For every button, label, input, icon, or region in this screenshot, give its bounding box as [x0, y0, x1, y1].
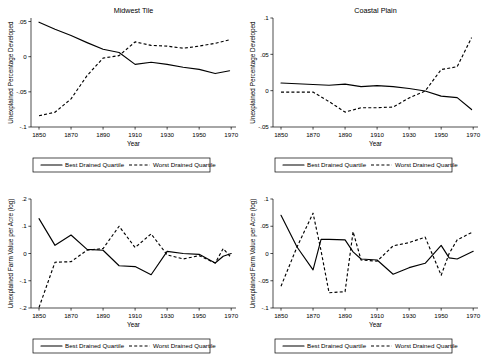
- panel-midwest-tile-pct: Midwest Tile.050-.05-.118501870189019101…: [0, 0, 242, 180]
- x-tick-label: 1910: [370, 131, 384, 138]
- panel-midwest-tile-value: .2.10-.1-.21850187018901910193019501970Y…: [0, 181, 242, 361]
- x-tick-label: 1930: [402, 131, 416, 138]
- legend-label-best-drained: Best Drained Quartile: [65, 342, 125, 349]
- y-tick-label: -.1: [20, 277, 28, 284]
- legend-label-best-drained: Best Drained Quartile: [307, 161, 367, 168]
- x-tick-label: 1850: [274, 131, 288, 138]
- x-tick-label: 1870: [306, 312, 320, 319]
- x-tick-label: 1950: [434, 312, 448, 319]
- series-line-worst-drained: [39, 40, 230, 116]
- series-line-worst-drained: [281, 38, 472, 112]
- panel-coastal-plain-pct: Coastal Plain.1.050-.0518501870189019101…: [242, 0, 484, 180]
- legend-label-worst-drained: Worst Drained Quartile: [395, 161, 458, 168]
- x-tick-label: 1870: [306, 131, 320, 138]
- y-axis-label: Unexplained Farm Value per Acre (log): [7, 199, 15, 309]
- x-tick-label: 1950: [192, 312, 206, 319]
- panel-coastal-plain-value: .1.050-.05-.1185018701890191019301950197…: [242, 181, 484, 361]
- x-tick-label: 1930: [402, 312, 416, 319]
- legend-label-worst-drained: Worst Drained Quartile: [153, 161, 216, 168]
- y-tick-label: 0: [23, 53, 27, 60]
- chart-body-midwest-tile-pct: Midwest Tile.050-.05-.118501870189019101…: [7, 6, 239, 172]
- x-tick-label: 1950: [192, 131, 206, 138]
- y-tick-label: -.05: [16, 88, 27, 95]
- x-tick-label: 1910: [128, 131, 142, 138]
- y-tick-label: .05: [260, 222, 269, 229]
- legend-label-worst-drained: Worst Drained Quartile: [153, 342, 216, 349]
- x-tick-label: 1850: [32, 131, 46, 138]
- chart-title: Midwest Tile: [114, 6, 154, 15]
- chart-title: Coastal Plain: [354, 6, 396, 15]
- x-tick-label: 1930: [160, 312, 174, 319]
- y-tick-label: .1: [264, 14, 270, 21]
- x-tick-label: 1850: [32, 312, 46, 319]
- x-tick-label: 1890: [338, 312, 352, 319]
- y-axis-label: Unexplained Farm Value per Acre (log): [249, 199, 257, 309]
- legend-label-best-drained: Best Drained Quartile: [307, 342, 367, 349]
- y-tick-label: 0: [265, 87, 269, 94]
- x-tick-label: 1870: [64, 131, 78, 138]
- x-tick-label: 1950: [434, 131, 448, 138]
- y-tick-label: .2: [22, 195, 28, 202]
- legend-label-best-drained: Best Drained Quartile: [65, 161, 125, 168]
- x-tick-label: 1930: [160, 131, 174, 138]
- x-axis-label: Year: [369, 140, 383, 147]
- chart-svg-coastal-plain-pct: Coastal Plain.1.050-.0518501870189019101…: [242, 0, 484, 180]
- y-tick-label: .05: [18, 18, 27, 25]
- chart-body-coastal-plain-value: .1.050-.05-.1185018701890191019301950197…: [249, 195, 481, 353]
- series-line-worst-drained: [281, 213, 473, 293]
- x-tick-label: 1850: [274, 312, 288, 319]
- y-tick-label: -.1: [262, 304, 270, 311]
- y-tick-label: 0: [265, 250, 269, 257]
- x-tick-label: 1970: [224, 131, 238, 138]
- chart-body-coastal-plain-pct: Coastal Plain.1.050-.0518501870189019101…: [249, 6, 481, 172]
- x-axis-label: Year: [127, 321, 141, 328]
- y-tick-label: .1: [22, 222, 28, 229]
- y-tick-label: .05: [260, 51, 269, 58]
- x-axis-label: Year: [127, 140, 141, 147]
- y-tick-label: -.05: [258, 277, 269, 284]
- series-line-best-drained: [39, 22, 230, 73]
- x-tick-label: 1970: [466, 312, 480, 319]
- y-tick-label: .1: [264, 195, 270, 202]
- y-tick-label: -.2: [20, 304, 28, 311]
- x-tick-label: 1910: [128, 312, 142, 319]
- y-axis-label: Unexplained Percentage Developed: [7, 21, 15, 124]
- y-tick-label: -.1: [20, 123, 28, 130]
- x-tick-label: 1970: [466, 131, 480, 138]
- x-tick-label: 1970: [224, 312, 238, 319]
- y-tick-label: 0: [23, 250, 27, 257]
- chart-svg-coastal-plain-value: .1.050-.05-.1185018701890191019301950197…: [242, 181, 484, 361]
- y-axis-label: Unexplained Percentage Developed: [249, 21, 257, 124]
- chart-svg-midwest-tile-pct: Midwest Tile.050-.05-.118501870189019101…: [0, 0, 242, 180]
- x-tick-label: 1890: [338, 131, 352, 138]
- y-tick-label: -.05: [258, 123, 269, 130]
- x-tick-label: 1890: [96, 312, 110, 319]
- legend-label-worst-drained: Worst Drained Quartile: [395, 342, 458, 349]
- chart-body-midwest-tile-value: .2.10-.1-.21850187018901910193019501970Y…: [7, 195, 239, 353]
- x-tick-label: 1870: [64, 312, 78, 319]
- x-axis-label: Year: [369, 321, 383, 328]
- x-tick-label: 1890: [96, 131, 110, 138]
- figure-four-panel-chart: Midwest Tile.050-.05-.118501870189019101…: [0, 0, 484, 361]
- x-tick-label: 1910: [370, 312, 384, 319]
- series-line-best-drained: [281, 83, 472, 110]
- chart-svg-midwest-tile-value: .2.10-.1-.21850187018901910193019501970Y…: [0, 181, 242, 361]
